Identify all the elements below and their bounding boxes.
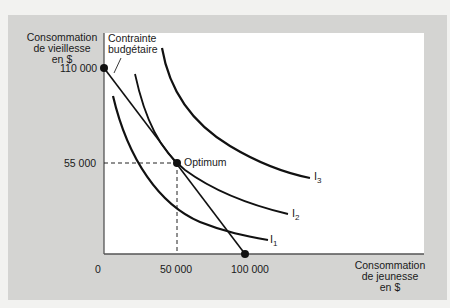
y-axis-label: Consommation de vieillesse en $ xyxy=(20,32,104,65)
y-tick-55000: 55 000 xyxy=(64,157,96,169)
point-optimum xyxy=(173,159,181,167)
curve-label-i1: I1 xyxy=(270,233,278,248)
i3-subscript: 3 xyxy=(317,176,321,185)
curve-label-i2: I2 xyxy=(292,207,300,222)
optimum-label: Optimum xyxy=(184,157,227,168)
x-axis-label: Consommation de jeunesse en $ xyxy=(345,260,435,293)
budget-pointer xyxy=(114,58,121,73)
budget-constraint-label: Contrainte budgétaire xyxy=(108,33,158,55)
indifference-curve-i1 xyxy=(113,96,268,240)
indifference-curve-i2 xyxy=(135,74,288,214)
point-110000 xyxy=(100,64,108,72)
x-tick-origin: 0 xyxy=(95,263,101,275)
x-axis-label-line3: en $ xyxy=(345,282,435,293)
i1-subscript: 1 xyxy=(273,239,277,248)
point-100000 xyxy=(241,250,249,258)
x-tick-50000: 50 000 xyxy=(160,263,192,275)
curve-label-i3: I3 xyxy=(314,170,322,185)
x-tick-100000: 100 000 xyxy=(231,263,269,275)
y-tick-110000: 110 000 xyxy=(60,62,97,74)
i2-subscript: 2 xyxy=(295,213,299,222)
budget-label-line2: budgétaire xyxy=(108,44,158,55)
